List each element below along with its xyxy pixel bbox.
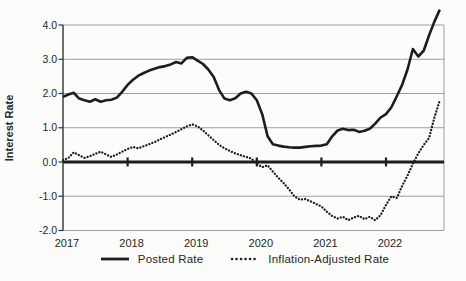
- legend-item-posted-rate: Posted Rate: [99, 253, 204, 265]
- y-tick-label: -2.0: [39, 224, 57, 236]
- solid-line-swatch: [99, 255, 131, 263]
- chart-figure: 4.03.02.01.00.0-1.0-2.0 2017201820192020…: [0, 0, 466, 281]
- legend-label-inflation-adjusted-rate: Inflation-Adjusted Rate: [268, 253, 389, 265]
- y-tick-label: 2.0: [42, 87, 57, 99]
- x-axis-tick-labels: 201720182019202020212022: [55, 237, 402, 249]
- y-tick-label: 3.0: [42, 53, 57, 65]
- legend: Posted Rate Inflation-Adjusted Rate: [0, 253, 466, 265]
- series-line-inflation-adjusted-rate: [63, 100, 440, 220]
- gridlines: [63, 25, 444, 231]
- y-axis-title: Interest Rate: [3, 95, 15, 162]
- y-axis-tick-labels: 4.03.02.01.00.0-1.0-2.0: [39, 19, 57, 237]
- x-tick-label: 2022: [378, 237, 402, 249]
- x-tick-label: 2021: [313, 237, 337, 249]
- series-lines: [63, 10, 440, 221]
- series-line-posted-rate: [63, 10, 440, 148]
- legend-label-posted-rate: Posted Rate: [138, 253, 204, 265]
- x-tick-label: 2019: [184, 237, 208, 249]
- x-tick-label: 2020: [249, 237, 273, 249]
- y-tick-label: 4.0: [42, 19, 57, 31]
- x-tick-label: 2018: [119, 237, 143, 249]
- line-chart: 4.03.02.01.00.0-1.0-2.0 2017201820192020…: [0, 0, 466, 281]
- x-tick-label: 2017: [55, 237, 79, 249]
- y-tick-label: 1.0: [42, 121, 57, 133]
- dotted-line-swatch: [229, 255, 261, 263]
- y-tick-label: -1.0: [39, 190, 57, 202]
- y-tick-label: 0.0: [42, 156, 57, 168]
- legend-item-inflation-adjusted-rate: Inflation-Adjusted Rate: [229, 253, 389, 265]
